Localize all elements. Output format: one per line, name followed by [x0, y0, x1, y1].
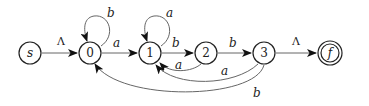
state-s: s [19, 42, 41, 64]
edge-1-2: b [162, 36, 193, 53]
state-3: 3 [253, 42, 275, 64]
state-2: 2 [195, 42, 217, 64]
state-0: 0 [79, 42, 101, 64]
edge-2-3: b [218, 36, 251, 53]
edge-label: b [253, 86, 261, 100]
edge-label: b [172, 36, 180, 50]
edge-3-1: a [156, 64, 258, 81]
state-label: 0 [86, 46, 94, 60]
state-label: 3 [260, 46, 268, 60]
automaton-diagram: Λ b a a b a b a b Λ s [0, 0, 369, 106]
edge-label: b [229, 36, 237, 50]
edge-label: a [166, 6, 173, 20]
edge-3-f: Λ [276, 35, 316, 53]
edge-1-1-loop: a [145, 6, 173, 46]
edge-label: Λ [291, 35, 301, 48]
edge-label: Λ [56, 35, 66, 48]
state-label: s [27, 46, 33, 60]
state-label: 1 [146, 46, 154, 60]
edge-label: b [107, 6, 115, 20]
edge-label: a [221, 64, 228, 78]
edge-label: a [113, 36, 120, 50]
edge-2-1: a [160, 58, 201, 72]
edge-label: a [175, 58, 182, 72]
edge-0-0-loop: b [85, 6, 115, 46]
state-f-accepting: f [318, 41, 342, 65]
state-label: 2 [202, 46, 210, 60]
state-1: 1 [139, 42, 161, 64]
edge-s-0: Λ [42, 35, 77, 53]
